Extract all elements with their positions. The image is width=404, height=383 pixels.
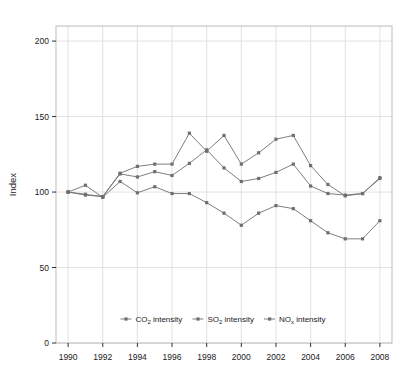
data-point-marker (309, 219, 312, 222)
x-tick-label: 2006 (336, 352, 355, 362)
data-point-marker (136, 175, 139, 178)
plot-frame (56, 26, 392, 343)
x-tick-label: 2004 (301, 352, 320, 362)
data-point-marker (344, 237, 347, 240)
y-tick-label: 0 (44, 338, 49, 348)
legend-swatch-marker (268, 317, 271, 320)
data-point-marker (326, 183, 329, 186)
data-point-marker (378, 219, 381, 222)
data-point-marker (222, 166, 225, 169)
y-tick-label: 200 (35, 36, 49, 46)
x-tick-label: 1998 (197, 352, 216, 362)
series-line (68, 133, 380, 196)
data-point-marker (188, 192, 191, 195)
x-tick-label: 1990 (59, 352, 78, 362)
data-point-marker (84, 193, 87, 196)
legend-entry[interactable]: NOx intensity (264, 315, 326, 325)
data-point-marker (274, 204, 277, 207)
series-nox-intensity (67, 132, 382, 199)
y-tick-label: 100 (35, 187, 49, 197)
data-point-marker (153, 170, 156, 173)
data-point-marker (205, 201, 208, 204)
data-point-marker (326, 231, 329, 234)
data-point-marker (67, 190, 70, 193)
data-point-marker (309, 184, 312, 187)
data-point-marker (344, 194, 347, 197)
data-point-marker (292, 207, 295, 210)
data-point-marker (257, 212, 260, 215)
series-line (68, 181, 380, 238)
data-point-marker (170, 163, 173, 166)
legend-swatch-marker (124, 317, 127, 320)
data-point-marker (361, 237, 364, 240)
data-point-marker (84, 184, 87, 187)
x-tick-label: 2008 (370, 352, 389, 362)
data-point-marker (240, 180, 243, 183)
data-point-marker (292, 163, 295, 166)
y-tick-label: 50 (40, 263, 50, 273)
chart-container: 050100150200Index19901992199419961998200… (0, 0, 404, 383)
data-point-marker (170, 174, 173, 177)
data-point-marker (136, 191, 139, 194)
data-point-marker (153, 185, 156, 188)
data-point-marker (118, 180, 121, 183)
data-point-marker (222, 212, 225, 215)
gridlines (56, 26, 392, 343)
x-tick-label: 1996 (163, 352, 182, 362)
data-point-marker (205, 150, 208, 153)
data-point-marker (222, 134, 225, 137)
data-point-marker (274, 171, 277, 174)
legend-label: CO2 intensity (135, 315, 182, 325)
data-point-marker (136, 165, 139, 168)
x-tick-label: 1992 (93, 352, 112, 362)
data-point-marker (378, 176, 381, 179)
y-axis-title: Index (7, 173, 18, 196)
data-point-marker (292, 134, 295, 137)
legend: CO2 intensitySO2 intensityNOx intensity (120, 315, 325, 325)
legend-entry[interactable]: CO2 intensity (120, 315, 182, 325)
data-point-marker (361, 192, 364, 195)
data-point-marker (240, 224, 243, 227)
x-tick-label: 2000 (232, 352, 251, 362)
data-point-marker (274, 138, 277, 141)
legend-swatch-marker (196, 317, 199, 320)
data-point-marker (309, 164, 312, 167)
data-point-marker (326, 192, 329, 195)
data-point-marker (240, 163, 243, 166)
data-point-marker (170, 192, 173, 195)
data-point-marker (118, 172, 121, 175)
legend-label: SO2 intensity (207, 315, 253, 325)
x-axis: 1990199219941996199820002002200420062008 (59, 343, 390, 362)
y-tick-label: 150 (35, 112, 49, 122)
series-line (68, 150, 380, 197)
x-tick-label: 1994 (128, 352, 147, 362)
data-point-marker (188, 162, 191, 165)
data-point-marker (188, 132, 191, 135)
data-point-marker (101, 195, 104, 198)
x-tick-label: 2002 (266, 352, 285, 362)
data-point-marker (257, 177, 260, 180)
index-line-chart: 050100150200Index19901992199419961998200… (0, 0, 404, 383)
series-co2-intensity (67, 148, 382, 198)
data-point-marker (153, 163, 156, 166)
legend-entry[interactable]: SO2 intensity (192, 315, 253, 325)
y-axis: 050100150200 (35, 36, 56, 348)
legend-label: NOx intensity (279, 315, 326, 325)
data-point-marker (257, 151, 260, 154)
